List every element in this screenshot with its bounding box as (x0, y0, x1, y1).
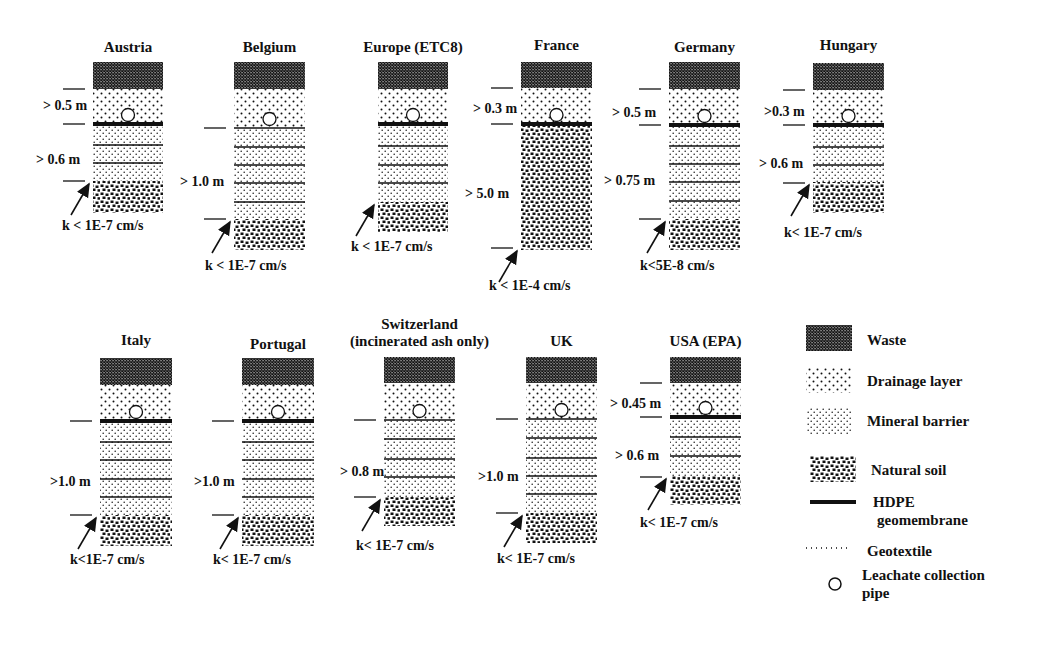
natural-soil-layer (813, 182, 884, 213)
hdpe-geomembrane (100, 419, 172, 423)
profile-title: Germany (674, 39, 735, 55)
thickness-label: >1.0 m (50, 474, 91, 489)
waste-layer (93, 62, 163, 89)
leachate-pipe-icon (413, 405, 426, 418)
profile-title: Austria (104, 39, 153, 55)
waste-layer (813, 63, 884, 90)
profile-europe: Europe (ETC8)k < 1E-7 cm/s (351, 39, 463, 254)
thickness-label: > 0.5 m (612, 105, 656, 120)
profile-belgium: Belgium> 1.0 mk < 1E-7 cm/s (180, 39, 305, 273)
waste-layer (526, 357, 597, 383)
arrow-icon (647, 222, 665, 253)
legend-item-hdpe: HDPE geomembrane (810, 494, 968, 528)
profile-italy: Italy>1.0 mk<1E-7 cm/s (50, 332, 172, 567)
waste-layer (378, 62, 448, 89)
legend: Waste Drainage layer Mineral barrier Nat… (806, 325, 986, 601)
waste-swatch-icon (806, 325, 852, 351)
thickness-label: > 0.6 m (36, 152, 80, 167)
thickness-label: >0.3 m (764, 104, 805, 119)
profile-title: France (534, 37, 579, 53)
mineral-barrier-layer (669, 125, 740, 219)
leachate-pipe-icon (272, 406, 285, 419)
mineral-barrier-layer (378, 124, 448, 202)
hdpe-geomembrane (521, 122, 592, 126)
profile-france: France> 0.3 m> 5.0 mk < 1E-4 cm/s (465, 37, 592, 293)
leachate-pipe-icon (698, 110, 711, 123)
arrow-icon (504, 516, 522, 547)
profile-usa: USA (EPA)> 0.45 m> 0.6 mk< 1E-7 cm/s (610, 333, 741, 530)
leachate-pipe-icon (130, 406, 143, 419)
natural-soil-layer (93, 181, 163, 213)
natural-soil-layer (384, 497, 455, 526)
natural-soil-layer (234, 219, 305, 250)
hdpe-geomembrane (378, 122, 448, 126)
legend-item-waste: Waste (806, 325, 907, 351)
thickness-label: > 0.8 m (340, 464, 384, 479)
profile-switzerland: Switzerland(incinerated ash only)> 0.8 m… (340, 316, 489, 553)
mineral-barrier-layer (100, 421, 172, 515)
natural-soil-layer (100, 515, 172, 546)
thickness-label: > 5.0 m (465, 186, 509, 201)
leachate-pipe-icon (122, 109, 135, 122)
permeability-label: k< 1E-7 cm/s (640, 515, 719, 530)
legend-label: Waste (867, 332, 907, 348)
natural-soil-layer (242, 515, 314, 546)
thickness-label: > 1.0 m (180, 174, 224, 189)
legend-label: pipe (862, 585, 890, 601)
legend-label: Geotextile (867, 543, 932, 559)
natural-soil-layer (670, 476, 741, 505)
arrow-icon (212, 222, 230, 253)
waste-layer (242, 358, 314, 385)
natural-soil-layer (521, 124, 592, 250)
thickness-label: > 0.6 m (615, 448, 659, 463)
mineral-barrier-layer (670, 417, 741, 476)
natural-soil-layer (669, 219, 740, 250)
waste-layer (521, 62, 592, 88)
thickness-label: > 0.3 m (473, 101, 517, 116)
drainage-swatch-icon (806, 367, 852, 393)
hdpe-geomembrane (670, 415, 741, 419)
thickness-label: > 0.6 m (759, 156, 803, 171)
thickness-label: > 0.5 m (43, 98, 87, 113)
waste-layer (100, 358, 172, 385)
profile-title: Italy (121, 332, 152, 348)
mineral-barrier-layer (242, 421, 314, 515)
permeability-label: k< 1E-7 cm/s (497, 551, 576, 566)
profile-title: Portugal (250, 336, 306, 352)
permeability-label: k < 1E-7 cm/s (205, 258, 287, 273)
hdpe-geomembrane (669, 123, 740, 127)
profile-title: Belgium (243, 39, 297, 55)
waste-layer (670, 357, 741, 383)
permeability-label: k<5E-8 cm/s (640, 258, 715, 273)
legend-label: Mineral barrier (867, 413, 969, 429)
profile-austria: Austria> 0.5 m> 0.6 mk < 1E-7 cm/s (36, 39, 163, 233)
waste-layer (669, 62, 740, 89)
natural-soil-layer (378, 202, 448, 232)
legend-item-soil: Natural soil (810, 456, 946, 482)
leachate-pipe-icon (842, 110, 855, 123)
profile-uk: UK>1.0 mk< 1E-7 cm/s (478, 333, 597, 566)
waste-layer (234, 62, 305, 89)
profile-title: USA (EPA) (670, 333, 742, 350)
legend-label: HDPE (873, 494, 915, 510)
legend-item-drainage: Drainage layer (806, 367, 963, 393)
legend-label: Leachate collection (862, 567, 986, 583)
mineral-barrier-layer (234, 128, 305, 219)
permeability-label: k < 1E-7 cm/s (62, 218, 144, 233)
hdpe-geomembrane (93, 122, 163, 126)
profile-hungary: Hungary>0.3 m> 0.6 mk< 1E-7 cm/s (759, 37, 884, 240)
legend-item-geotextile: Geotextile (806, 543, 932, 559)
arrow-icon (71, 184, 89, 215)
leachate-pipe-icon (699, 402, 712, 415)
mineral-barrier-layer (93, 124, 163, 181)
legend-label: geomembrane (877, 512, 968, 528)
hdpe-line-icon (810, 500, 856, 504)
arrow-icon (362, 500, 380, 531)
arrow-icon (791, 185, 809, 216)
profile-title: Switzerland (381, 316, 458, 332)
arrow-icon (220, 518, 238, 549)
profile-title: Europe (ETC8) (363, 39, 462, 56)
leachate-pipe-icon (263, 113, 276, 126)
soil-swatch-icon (810, 456, 856, 482)
hdpe-geomembrane (242, 419, 314, 423)
